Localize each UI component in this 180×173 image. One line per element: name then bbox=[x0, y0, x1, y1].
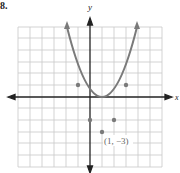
y-axis-label: y bbox=[87, 2, 92, 12]
y-axis-up-arrow-icon bbox=[88, 18, 93, 25]
x-axis-left-arrow-icon bbox=[8, 95, 15, 100]
point bbox=[88, 118, 92, 122]
point bbox=[76, 83, 80, 87]
vertex-label: (1, −3) bbox=[104, 136, 129, 146]
x-axis-label: x bbox=[174, 93, 179, 102]
parabola-graph: y x (1, −3) bbox=[0, 0, 180, 173]
vertex-point bbox=[100, 130, 104, 134]
point bbox=[112, 118, 116, 122]
y-axis-down-arrow-icon bbox=[88, 166, 93, 173]
point bbox=[124, 83, 128, 87]
x-axis-right-arrow-icon bbox=[165, 95, 172, 100]
curve-left-arrow-icon bbox=[64, 21, 70, 29]
curve-right-arrow-icon bbox=[134, 21, 140, 29]
axes bbox=[8, 18, 172, 173]
